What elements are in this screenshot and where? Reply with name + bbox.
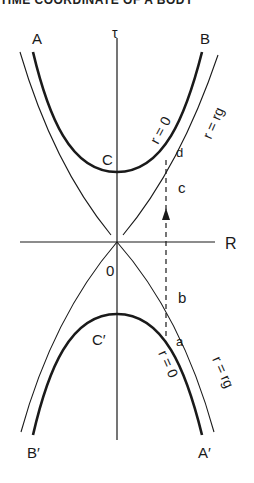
lower-horizon-label: r = rg bbox=[209, 354, 237, 391]
worldline-c-label: c bbox=[178, 179, 186, 196]
point-a-prime-label: A′ bbox=[198, 444, 211, 461]
worldline-b-label: b bbox=[178, 289, 186, 306]
worldline-a-label: a bbox=[176, 334, 184, 349]
upper-right-horizon-curve bbox=[123, 55, 218, 235]
arrow-up-icon bbox=[162, 208, 170, 220]
point-b-prime-label: B′ bbox=[27, 444, 40, 461]
upper-horizon-label: r = rg bbox=[199, 104, 227, 141]
upper-left-horizon-curve bbox=[20, 52, 111, 235]
point-c-prime-label: C′ bbox=[92, 331, 106, 348]
tau-label: τ bbox=[112, 25, 118, 41]
point-c-label: C bbox=[102, 151, 113, 168]
upper-singularity-label: r = 0 bbox=[147, 114, 175, 147]
kruskal-diagram: τ R 0 A B C C′ B′ A′ d c b a r = 0 r = r… bbox=[0, 0, 254, 483]
point-a-label: A bbox=[32, 30, 42, 47]
lower-singularity-label: r = 0 bbox=[155, 348, 181, 381]
r-axis-label: R bbox=[225, 235, 237, 252]
origin-label: 0 bbox=[106, 262, 114, 279]
point-b-label: B bbox=[200, 30, 210, 47]
worldline-d-label: d bbox=[176, 145, 183, 160]
